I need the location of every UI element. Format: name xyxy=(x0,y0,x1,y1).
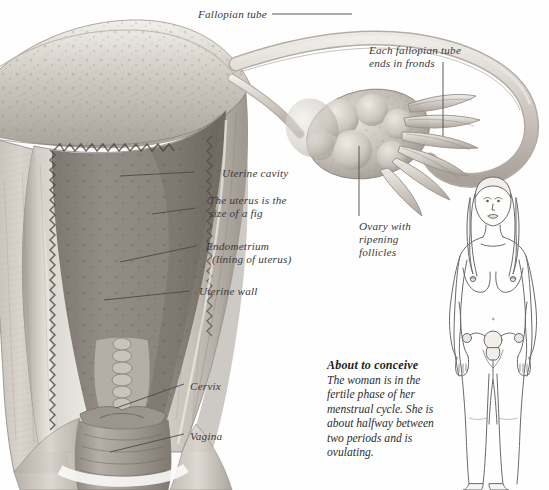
label-vagina: Vagina xyxy=(190,430,222,443)
label-ovary: Ovary with ripening follicles xyxy=(359,220,411,259)
label-fallopian-fronds: Each fallopian tube ends in fronds xyxy=(369,44,461,70)
label-uterus-size: The uterus is the size of a fig xyxy=(209,194,287,220)
label-endometrium: Endometrium (lining of uterus) xyxy=(206,240,291,266)
label-cervix: Cervix xyxy=(190,380,221,393)
label-uterine-wall: Uterine wall xyxy=(199,285,258,298)
illustration-canvas: Fallopian tube Each fallopian tube ends … xyxy=(0,0,549,490)
pelvic-organs-inset xyxy=(463,331,524,380)
caption-block: About to conceive The woman is in the fe… xyxy=(327,358,445,460)
caption-body: The woman is in the fertile phase of her… xyxy=(327,374,445,460)
label-fallopian-tube: Fallopian tube xyxy=(198,8,267,21)
caption-heading: About to conceive xyxy=(327,358,445,373)
label-uterine-cavity: Uterine cavity xyxy=(222,167,288,180)
female-body-diagram xyxy=(437,168,549,490)
